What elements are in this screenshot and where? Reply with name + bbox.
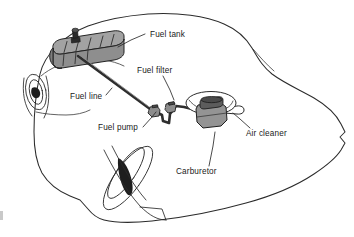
fuel-pump-flange [152,105,158,108]
carburetor [196,97,227,129]
label-fuel-tank: Fuel tank [150,30,186,39]
scan-artifact [0,211,3,220]
diagram-canvas: Fuel tank Fuel filter Fuel line Fuel pum… [0,0,354,237]
label-fuel-filter: Fuel filter [137,66,172,75]
label-fuel-line: Fuel line [70,92,103,101]
label-carburetor: Carburetor [176,167,217,176]
label-fuel-pump: Fuel pump [98,123,138,132]
fuel-tank-filler-collar [71,37,80,43]
label-air-cleaner: Air cleaner [246,129,287,138]
carburetor-air-horn [201,97,222,103]
fuel-system-diagram: Fuel tank Fuel filter Fuel line Fuel pum… [0,0,354,237]
fuel-tank-filler-cap [72,28,79,32]
